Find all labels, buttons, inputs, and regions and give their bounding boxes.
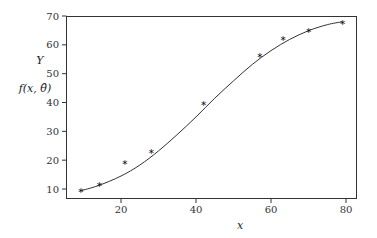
fitted-curve xyxy=(80,22,343,191)
data-point-star-icon: ∗ xyxy=(121,158,128,167)
y-axis-label-observed: Y xyxy=(36,54,45,67)
y-label-prefix: f(x, xyxy=(18,82,41,95)
y-tick-label: 30 xyxy=(46,126,59,137)
x-tick-label: 80 xyxy=(340,204,353,215)
x-tick-label: 20 xyxy=(115,204,128,215)
y-label-suffix: ) xyxy=(46,82,51,95)
x-tick-label: 40 xyxy=(190,204,203,215)
data-point-star-icon: ∗ xyxy=(148,147,155,156)
data-points: ∗∗∗∗∗∗∗∗∗ xyxy=(78,18,346,195)
y-axis-ticks: 10203040506070 xyxy=(46,11,66,195)
chart-canvas: 10203040506070 20406080 ∗∗∗∗∗∗∗∗∗ x Y f(… xyxy=(0,0,377,238)
y-tick-label: 60 xyxy=(46,39,59,50)
data-point-star-icon: ∗ xyxy=(96,180,103,189)
x-axis-label: x xyxy=(237,219,244,232)
data-point-star-icon: ∗ xyxy=(78,186,85,195)
y-tick-label: 20 xyxy=(46,155,59,166)
data-point-star-icon: ∗ xyxy=(339,18,346,27)
x-tick-label: 60 xyxy=(265,204,278,215)
y-tick-label: 50 xyxy=(46,68,59,79)
y-axis-label-fitted: f(x, θ̂) xyxy=(18,82,51,95)
data-point-star-icon: ∗ xyxy=(200,99,207,108)
data-point-star-icon: ∗ xyxy=(256,51,263,60)
y-tick-label: 40 xyxy=(46,97,59,108)
plot-frame xyxy=(67,17,357,199)
data-point-star-icon: ∗ xyxy=(305,26,312,35)
y-tick-label: 70 xyxy=(46,11,59,22)
data-point-star-icon: ∗ xyxy=(280,34,287,43)
y-tick-label: 10 xyxy=(46,184,59,195)
x-axis-ticks: 20406080 xyxy=(115,199,353,216)
